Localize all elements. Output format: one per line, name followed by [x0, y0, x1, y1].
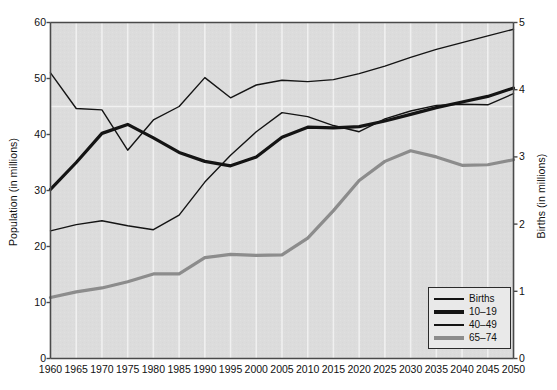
legend-item: 65–74 [434, 331, 505, 344]
legend-item-label: Births [469, 293, 495, 304]
line-swatch-thin-black-icon [434, 324, 464, 326]
legend-item-label: 65–74 [469, 332, 497, 343]
legend-item: Births [434, 292, 505, 305]
line-swatch-thick-gray-icon [434, 336, 464, 340]
legend-item: 10–19 [434, 305, 505, 318]
chart-figure: Population (in millions) Births (in mill… [0, 0, 557, 390]
legend-item-label: 40–49 [469, 319, 497, 330]
chart-legend: Births 10–19 40–49 65–74 [428, 287, 511, 349]
line-swatch-thick-black-icon [434, 310, 464, 314]
legend-item-label: 10–19 [469, 306, 497, 317]
legend-item: 40–49 [434, 318, 505, 331]
line-swatch-thin-black-icon [434, 298, 464, 300]
